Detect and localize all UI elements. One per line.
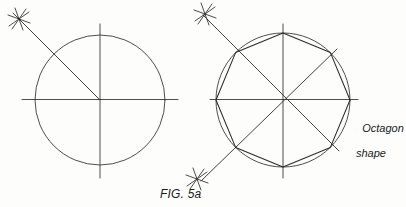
right-figure [186, 3, 358, 190]
arc-intersection-mark-icon-top [194, 3, 216, 25]
figure-page: Octagon shape FIG. 5a [0, 0, 406, 207]
octagon-shape-annotation: Octagon shape [350, 110, 404, 184]
left-figure [8, 8, 178, 178]
octagon-label-line2: shape [350, 147, 404, 159]
left-diagonal-construction-line [13, 13, 100, 100]
figure-caption: FIG. 5a [160, 188, 201, 201]
technical-drawing [0, 0, 406, 207]
octagon-label-line1: Octagon [362, 122, 404, 134]
